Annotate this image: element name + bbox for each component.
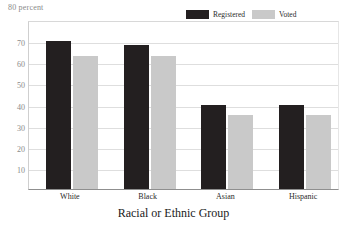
- legend-swatch-voted-icon: [252, 10, 275, 19]
- y-axis-tick-label: 20: [17, 144, 25, 153]
- plot-area: 70605040302010: [28, 21, 339, 190]
- y-axis-tick-label: 70: [17, 39, 25, 48]
- x-axis-category-labels: WhiteBlackAsianHispanic: [28, 192, 339, 206]
- bar-group: [124, 22, 176, 189]
- x-axis-title: Racial or Ethnic Group: [0, 206, 347, 221]
- bar-registered-hispanic: [279, 105, 304, 190]
- y-axis-tick-label: 10: [17, 165, 25, 174]
- bar-registered-white: [46, 41, 71, 189]
- legend-label-voted: Voted: [279, 10, 296, 19]
- legend-label-registered: Registered: [213, 10, 245, 19]
- bar-group: [201, 22, 253, 189]
- x-axis-label-black: Black: [138, 192, 157, 201]
- y-axis-tick-label: 50: [17, 81, 25, 90]
- y-axis-unit-label: 80 percent: [8, 3, 44, 12]
- x-axis-label-white: White: [60, 192, 80, 201]
- bar-registered-black: [124, 45, 149, 189]
- y-axis-tick-label: 30: [17, 123, 25, 132]
- bar-group: [46, 22, 98, 189]
- legend-item-registered: Registered: [186, 10, 245, 19]
- y-axis-tick-label: 40: [17, 102, 25, 111]
- bar-voted-asian: [228, 115, 253, 189]
- legend-swatch-registered-icon: [186, 10, 209, 19]
- y-axis-tick-label: 60: [17, 60, 25, 69]
- bar-chart: 80 percent Registered Voted 706050403020…: [0, 0, 347, 227]
- x-axis-label-hispanic: Hispanic: [289, 192, 317, 201]
- bar-voted-hispanic: [306, 115, 331, 189]
- bars-layer: [29, 22, 338, 189]
- x-axis-label-asian: Asian: [216, 192, 235, 201]
- bar-voted-black: [151, 56, 176, 189]
- bar-registered-asian: [201, 105, 226, 190]
- chart-legend: Registered Voted: [186, 9, 296, 20]
- bar-group: [279, 22, 331, 189]
- bar-voted-white: [73, 56, 98, 189]
- legend-item-voted: Voted: [252, 10, 296, 19]
